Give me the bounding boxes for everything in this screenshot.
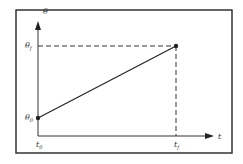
theta-final-label: θf — [25, 41, 33, 52]
y-axis-label: θ — [43, 7, 48, 16]
t-final-label: tf — [174, 140, 180, 151]
start-point — [36, 116, 40, 120]
t-start-label: t0 — [36, 140, 43, 150]
diagram-canvas: θ t θf θ0 t0 tf — [0, 0, 243, 164]
y-axis-arrow-icon — [35, 21, 41, 30]
end-point — [174, 44, 178, 48]
x-axis-arrow-icon — [205, 133, 214, 139]
theta-start-label: θ0 — [25, 113, 34, 123]
frame-border — [16, 10, 232, 153]
x-axis-label: t — [218, 132, 222, 141]
trajectory-line — [38, 46, 176, 118]
